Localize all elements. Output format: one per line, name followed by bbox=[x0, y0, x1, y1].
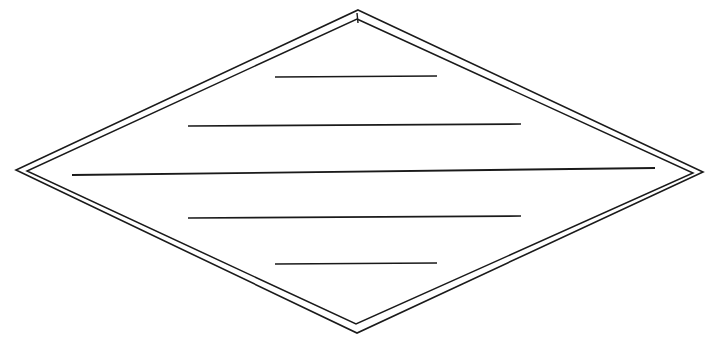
diamond-figure bbox=[0, 0, 708, 346]
rule-line-5 bbox=[275, 263, 437, 264]
paper-background bbox=[0, 0, 708, 346]
document-canvas bbox=[0, 0, 708, 346]
rule-line-1 bbox=[275, 76, 437, 77]
apex-tick-mark bbox=[357, 13, 358, 23]
